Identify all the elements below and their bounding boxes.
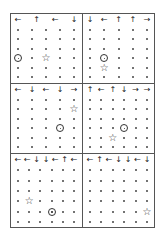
grid-dot [73, 118, 75, 120]
grid-dot [17, 38, 19, 40]
action-arrow-icon: ↑ [128, 15, 138, 25]
grid-dot [89, 108, 91, 110]
grid-dot [103, 29, 105, 31]
grid-dot [100, 127, 102, 129]
agent-circle-icon [100, 54, 108, 62]
action-arrow-icon: ← [13, 15, 23, 25]
grid-panel-3: ←↓←↓→☆ [10, 83, 82, 153]
grid-dot [45, 38, 47, 40]
grid-dot [146, 200, 148, 202]
grid-dot [17, 67, 19, 69]
grid-panel-2: ↓←↑↑→☆ [82, 13, 155, 83]
grid-dot [100, 221, 102, 223]
grid-dot [73, 211, 75, 213]
grid-dot [89, 190, 91, 192]
grid-dot [100, 146, 102, 148]
grid-dot [100, 118, 102, 120]
action-arrow-icon: ↑ [114, 15, 124, 25]
grid-dot [51, 200, 53, 202]
action-arrow-icon: → [131, 85, 141, 95]
grid-dot [39, 190, 41, 192]
grid-dot [31, 108, 33, 110]
grid-dot [135, 190, 137, 192]
grid-dot [73, 200, 75, 202]
grid-dot [146, 108, 148, 110]
grid-dot [132, 67, 134, 69]
grid-dot [118, 67, 120, 69]
action-arrow-icon: ← [96, 85, 106, 95]
grid-dot [123, 221, 125, 223]
grid-dot [118, 57, 120, 59]
grid-dot [45, 137, 47, 139]
grid-dot [45, 118, 47, 120]
grid-dot [31, 38, 33, 40]
grid-dot [123, 169, 125, 171]
grid-dot [103, 48, 105, 50]
action-arrow-icon: ← [99, 15, 109, 25]
grid-panel-4: ↑←↑↓→→☆ [82, 83, 155, 153]
grid-panel-1: ←↑←↓☆ [10, 13, 82, 83]
grid-dot [45, 127, 47, 129]
goal-star-icon: ☆ [100, 63, 109, 73]
grid-dot [135, 99, 137, 101]
grid-dot [146, 38, 148, 40]
action-arrow-icon: ← [50, 15, 60, 25]
grid-dot [59, 137, 61, 139]
grid-dot [146, 127, 148, 129]
grid-dot [123, 200, 125, 202]
grid-dot [73, 190, 75, 192]
grid-dot [59, 67, 61, 69]
grid-dot [73, 38, 75, 40]
grid-dot [31, 76, 33, 78]
grid-dot [89, 118, 91, 120]
grid-dot [62, 221, 64, 223]
grid-dot [17, 29, 19, 31]
grid-dot [17, 137, 19, 139]
action-arrow-icon: → [142, 15, 152, 25]
grid-dot [89, 127, 91, 129]
grid-dot [28, 190, 30, 192]
grid-dot [123, 118, 125, 120]
goal-star-icon: ☆ [108, 133, 117, 143]
grid-dot [112, 127, 114, 129]
grid-dot [45, 146, 47, 148]
grid-dot [146, 146, 148, 148]
grid-dot [73, 99, 75, 101]
grid-dot [100, 99, 102, 101]
action-arrow-icon: ↑ [85, 85, 95, 95]
action-arrow-icon: → [69, 85, 79, 95]
grid-dot [118, 76, 120, 78]
agent-circle-icon [48, 208, 56, 216]
grid-dot [132, 29, 134, 31]
grid-dot [59, 57, 61, 59]
grid-dot [112, 190, 114, 192]
grid-dot [135, 169, 137, 171]
action-arrow-icon: ← [133, 155, 143, 165]
grid-dot [135, 221, 137, 223]
grid-dot [28, 180, 30, 182]
grid-dot [39, 180, 41, 182]
grid-dot [132, 48, 134, 50]
grid-dot [31, 137, 33, 139]
grid-dot [31, 57, 33, 59]
grid-dot [17, 146, 19, 148]
grid-dot [17, 99, 19, 101]
action-arrow-icon: ↓ [114, 155, 124, 165]
grid-dot [89, 137, 91, 139]
grid-dot [28, 169, 30, 171]
grid-dot [89, 67, 91, 69]
grid-dot [17, 127, 19, 129]
grid-dot [28, 221, 30, 223]
grid-dot [146, 118, 148, 120]
grid-panel-6: ←↑←↓↓←↓☆ [82, 153, 155, 228]
action-arrow-icon: ↓ [27, 85, 37, 95]
grid-dot [17, 200, 19, 202]
grid-panel-5: ←←↓↓←↑←☆ [10, 153, 82, 228]
action-arrow-icon: ↓ [55, 85, 65, 95]
action-arrow-icon: → [142, 85, 152, 95]
grid-dot [89, 48, 91, 50]
grid-dot [17, 76, 19, 78]
grid-dot [135, 108, 137, 110]
grid-dot [132, 57, 134, 59]
grid-dot [146, 169, 148, 171]
